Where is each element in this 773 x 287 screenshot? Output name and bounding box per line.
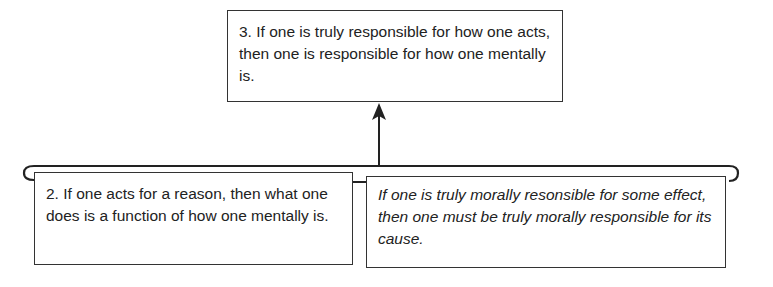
conclusion-box: 3. If one is truly responsible for how o… bbox=[227, 10, 563, 102]
premise-2-text: 2. If one acts for a reason, then what o… bbox=[46, 183, 344, 227]
premise-box-2: 2. If one acts for a reason, then what o… bbox=[34, 172, 353, 265]
premise-unnumbered-text: If one is truly morally resonsible for s… bbox=[378, 184, 717, 250]
premise-box-unnumbered: If one is truly morally resonsible for s… bbox=[366, 176, 726, 268]
conclusion-text: 3. If one is truly responsible for how o… bbox=[239, 21, 554, 87]
